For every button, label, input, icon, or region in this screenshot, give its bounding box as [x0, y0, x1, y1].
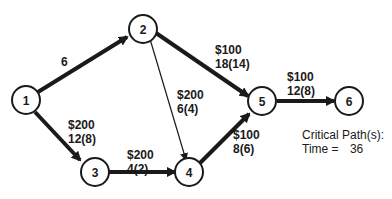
svg-text:6: 6 — [346, 95, 353, 109]
edge-2-5-cost: $100 — [215, 43, 250, 57]
edge-2-4-time: 6(4) — [177, 102, 204, 116]
svg-text:2: 2 — [140, 23, 147, 37]
edge-4-5-cost: $100 — [233, 128, 260, 142]
edge-2-5-label: $100 18(14) — [215, 43, 250, 71]
node-4: 4 — [175, 158, 203, 186]
edge-1-3-label: $200 12(8) — [68, 118, 96, 146]
edge-3-4-time: 4(2) — [127, 162, 154, 176]
critical-path-info: Critical Path(s): Time = 36 — [302, 128, 384, 156]
edge-3-4-cost: $200 — [127, 148, 154, 162]
svg-text:4: 4 — [186, 166, 193, 180]
edge-5-6-label: $100 12(8) — [287, 70, 315, 98]
svg-text:5: 5 — [259, 95, 266, 109]
edge-2-5-time: 18(14) — [215, 57, 250, 71]
edge-3-4-label: $200 4(2) — [127, 148, 154, 176]
node-5: 5 — [248, 87, 276, 115]
svg-text:3: 3 — [92, 166, 99, 180]
edge-1-3-time: 12(8) — [68, 132, 96, 146]
edge-4-5-label: $100 8(6) — [233, 128, 260, 156]
edge-1-2-label: 6 — [61, 55, 68, 69]
node-6: 6 — [335, 87, 363, 115]
time-value: 36 — [350, 142, 363, 156]
svg-text:1: 1 — [23, 94, 30, 108]
node-1: 1 — [12, 86, 40, 114]
critical-path-label: Critical Path(s): — [302, 128, 384, 142]
node-3: 3 — [81, 158, 109, 186]
edge-1-3-cost: $200 — [68, 118, 96, 132]
time-label: Time = — [302, 142, 339, 156]
edge-1-2-time: 6 — [61, 55, 68, 69]
edge-2-4-label: $200 6(4) — [177, 88, 204, 116]
edge-5-6-time: 12(8) — [287, 84, 315, 98]
edge-2-4-cost: $200 — [177, 88, 204, 102]
edge-5-6-cost: $100 — [287, 70, 315, 84]
edge-4-5-time: 8(6) — [233, 142, 260, 156]
edge-1-2 — [38, 37, 127, 92]
time-row: Time = 36 — [302, 142, 384, 156]
node-2: 2 — [129, 15, 157, 43]
